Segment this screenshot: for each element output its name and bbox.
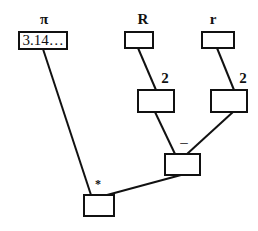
- subtract-node[interactable]: [164, 153, 201, 176]
- subtract-label: –: [177, 135, 191, 150]
- pi-node[interactable]: 3.14…: [18, 31, 68, 50]
- pi-label: π: [36, 12, 52, 27]
- r-node[interactable]: [201, 31, 235, 49]
- pi-value: 3.14…: [22, 32, 63, 49]
- R-squared-node[interactable]: [137, 89, 175, 113]
- R-node[interactable]: [124, 31, 154, 49]
- r-squared-node[interactable]: [210, 89, 248, 113]
- r-label: r: [205, 12, 221, 27]
- multiply-label: *: [93, 178, 103, 190]
- dataflow-diagram: π 3.14… R r 2 2 – *: [0, 0, 258, 231]
- r-squared-label: 2: [237, 71, 249, 86]
- R-label: R: [134, 12, 152, 27]
- R-squared-label: 2: [159, 71, 171, 86]
- multiply-node[interactable]: [83, 194, 115, 217]
